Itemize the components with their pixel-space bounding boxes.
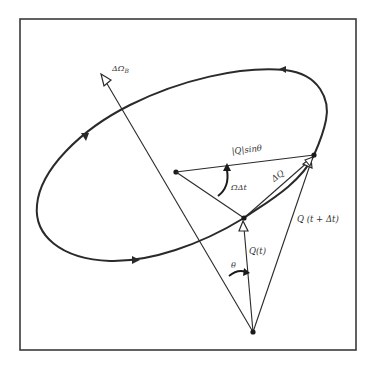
omega-axis-arrowhead-icon [101, 74, 111, 86]
q-t-label: Q(t) [249, 246, 266, 256]
precession-ellipse [37, 69, 327, 261]
theta-arrowhead-icon [243, 268, 250, 276]
omega-axis-line [106, 82, 253, 332]
q-t-dt-label: Q (t + Δt) [297, 214, 339, 224]
figure-frame [20, 19, 356, 350]
omega-dt-arc [218, 170, 228, 196]
q-t-tip-dot [241, 215, 246, 220]
delta-q-label: ΔQ [269, 168, 286, 184]
origin-dot [250, 329, 255, 334]
omega-axis-label: ΔΩB [111, 64, 129, 74]
ellipse-arrow-icon [132, 256, 140, 264]
omega-dt-arrowhead-icon [223, 163, 231, 171]
ellipse-arrow-icon [279, 66, 286, 73]
precession-diagram: ΔΩB |Q|sinθ ΩΔt ΔQ Q(t) Q (t + Δt) θ [0, 0, 373, 366]
radius-to-q-t-dt [176, 155, 314, 172]
q-t-vector [244, 228, 253, 332]
theta-label: θ [231, 261, 236, 270]
q-t-arrowhead-icon [239, 221, 248, 231]
q-sin-theta-label: |Q|sinθ [231, 143, 262, 157]
radius-to-q-t [176, 172, 244, 218]
q-t-dt-tip-dot [311, 152, 316, 157]
omega-dt-label: ΩΔt [230, 183, 247, 192]
